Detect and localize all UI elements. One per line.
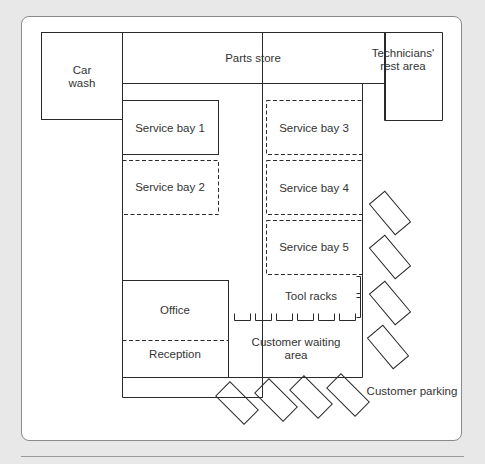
parking-column-right: [367, 191, 410, 368]
label-customer-parking: Customer parking: [367, 385, 458, 397]
label-service-bay-3: Service bay 3: [279, 122, 349, 134]
parking-space: [369, 235, 410, 278]
room-office: [123, 281, 229, 378]
rest-area-walls: [385, 33, 443, 121]
parking-space: [367, 325, 408, 368]
parking-space: [369, 281, 410, 324]
label-parts-store: Parts store: [225, 52, 281, 64]
label-technicians-rest-area: Technicians'rest area: [372, 47, 434, 72]
label-service-bay-1: Service bay 1: [135, 122, 205, 134]
label-service-bay-2: Service bay 2: [135, 181, 205, 193]
floor-plan: Carwash Parts store Technicians'rest are…: [0, 0, 485, 464]
parking-space: [255, 379, 297, 421]
label-tool-racks: Tool racks: [285, 290, 337, 302]
label-reception: Reception: [149, 348, 201, 360]
label-service-bay-5: Service bay 5: [279, 241, 349, 253]
parking-row-bottom: [216, 374, 369, 424]
label-car-wash: Carwash: [68, 64, 96, 89]
tool-rack-vertical: [357, 277, 361, 318]
room-car-wash: [42, 33, 123, 120]
label-service-bay-4: Service bay 4: [279, 182, 349, 194]
parking-space: [327, 374, 369, 416]
parking-space: [290, 376, 332, 418]
parking-space: [216, 382, 258, 424]
tool-rack-units: [235, 314, 356, 321]
label-office: Office: [160, 304, 190, 316]
parking-space: [369, 191, 410, 234]
label-customer-waiting-area: Customer waitingarea: [252, 336, 341, 361]
